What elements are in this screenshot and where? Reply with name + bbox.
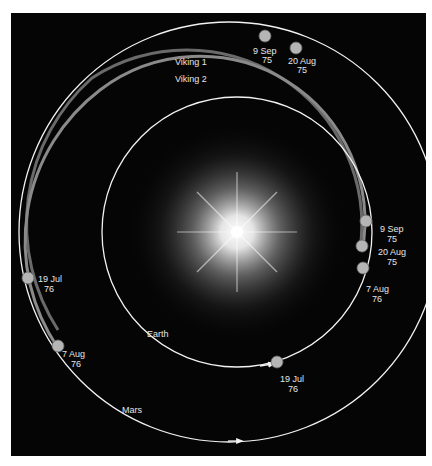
earth-year-label: 76 [372,294,382,304]
sun [127,122,347,342]
earth-date-label: 7 Aug [366,284,389,294]
orbit-diagram: Viking 1 Viking 2 Earth Mars 9 Sep 75 20… [11,13,426,456]
earth-date-label: 19 Jul [280,374,304,384]
diagram-frame: Viking 1 Viking 2 Earth Mars 9 Sep 75 20… [11,13,426,456]
earth-date-label: 20 Aug [378,247,406,257]
earth-label: Earth [147,329,169,339]
earth-year-label: 75 [387,257,397,267]
mars-year-label: 76 [71,359,81,369]
mars-year-label: 75 [262,55,272,65]
mars-date-label: 7 Aug [62,349,85,359]
viking-1-label: Viking 1 [175,57,207,67]
viking-2-label: Viking 2 [175,74,207,84]
mars-label: Mars [122,405,142,415]
earth-year-label: 76 [288,384,298,394]
mars-date-label: 19 Jul [38,274,62,284]
earth-date-label: 9 Sep [380,224,404,234]
earth-year-label: 75 [387,234,397,244]
mars-year-label: 76 [44,284,54,294]
mars-year-label: 75 [297,65,307,75]
